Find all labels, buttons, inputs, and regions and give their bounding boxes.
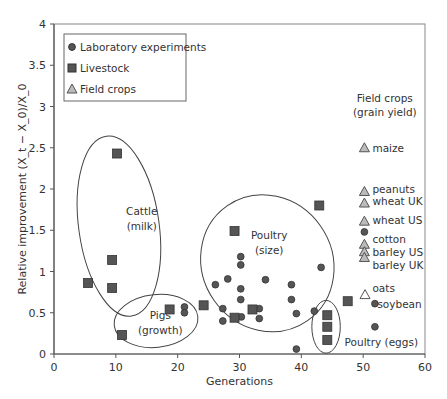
annotation: soybean [377,298,421,310]
lab-experiment-point [256,315,263,322]
lab-experiment-point [262,276,269,283]
livestock-point [118,331,127,340]
scatter-chart: 010203040506000.511.522.533.54Generation… [0,0,447,399]
annotation: cotton [372,233,406,245]
x-axis-label: Generations [206,375,273,388]
annotation: barley UK [372,259,424,271]
y-tick-label: 3 [39,101,46,114]
lab-experiment-point [237,296,244,303]
annotation: barley US [372,246,423,258]
annotation: oats [372,282,394,294]
y-tick-label: 1 [39,266,46,279]
field-crop-point [359,186,369,195]
x-tick-label: 20 [171,361,185,374]
group-label: (milk) [127,220,157,232]
livestock-point [230,313,239,322]
annotation: wheat US [372,214,422,226]
lab-experiment-point [372,323,379,330]
annotation: wheat UK [372,195,423,207]
x-tick-label: 60 [418,361,432,374]
lab-experiment-point [318,264,325,271]
field-crop-point [359,216,369,225]
y-tick-label: 3.5 [29,59,47,72]
group-label: (growth) [138,324,183,336]
lab-experiment-point [237,285,244,292]
x-tick-label: 40 [294,361,308,374]
field-crop-point [359,143,369,152]
annotation: peanuts [372,183,414,195]
livestock-point [199,301,208,310]
lab-experiment-point [293,310,300,317]
legend-square-icon [68,64,76,72]
livestock-point [84,279,93,288]
lab-experiment-point [288,296,295,303]
y-tick-label: 0.5 [29,307,47,320]
livestock-point [113,149,122,158]
legend-label: Field crops [80,83,136,95]
lab-experiment-point [224,276,231,283]
field-crop-point [360,290,370,299]
lab-experiment-point [288,281,295,288]
lab-experiment-point [181,309,188,316]
lab-experiment-point [237,262,244,269]
y-tick-label: 2 [39,183,46,196]
legend: Laboratory experimentsLivestockField cro… [64,34,206,101]
livestock-point [165,305,174,314]
x-tick-label: 30 [233,361,247,374]
legend-circle-icon [69,44,76,51]
legend-label: Laboratory experiments [80,41,206,53]
lab-experiment-point [219,305,226,312]
lab-experiment-point [361,229,368,236]
x-tick-label: 10 [109,361,123,374]
livestock-point [323,322,332,331]
lab-experiment-point [293,346,300,353]
livestock-point [108,284,117,293]
x-tick-label: 0 [51,361,58,374]
lab-experiment-point [237,253,244,260]
livestock-point [315,201,324,210]
field-crop-point [359,198,369,207]
livestock-point [108,255,117,264]
annotation: Field crops [357,92,413,104]
y-tick-label: 2.5 [29,142,47,155]
livestock-point [248,305,257,314]
lab-experiment-point [212,281,219,288]
livestock-point [323,335,332,344]
livestock-point [323,311,332,320]
lab-experiment-point [311,308,318,315]
annotation: (grain yield) [353,106,417,118]
group-label: Poultry [251,229,288,241]
livestock-point [230,227,239,236]
y-tick-label: 4 [39,18,46,31]
x-tick-label: 50 [356,361,370,374]
y-tick-label: 1.5 [29,224,47,237]
annotation: maize [372,142,404,154]
y-tick-label: 0 [39,348,46,361]
lab-experiment-point [219,318,226,325]
annotation: Poultry (eggs) [345,336,418,348]
group-label: (size) [255,244,284,256]
legend-label: Livestock [80,62,130,74]
group-label: Cattle [126,205,157,217]
group-ellipse [174,169,361,358]
livestock-point [343,297,352,306]
y-axis-label: Relative improvement (X_t − X_0)/X_0 [16,83,29,294]
